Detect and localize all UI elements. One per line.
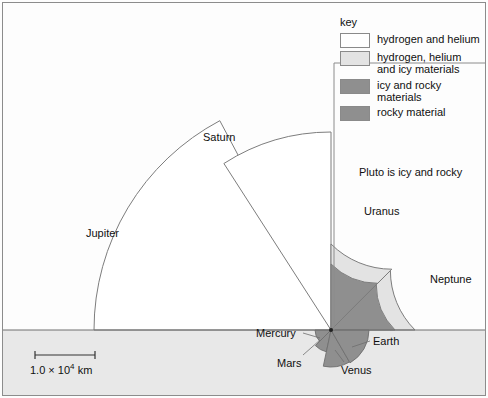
planet-size-comparison-figure: key hydrogen and helium hydrogen, helium… bbox=[0, 0, 488, 398]
key-panel: key hydrogen and helium hydrogen, helium… bbox=[340, 16, 486, 124]
scale-value: 1.0 bbox=[30, 364, 45, 376]
planet-label-mercury: Mercury bbox=[256, 327, 296, 340]
planet-label-uranus: Uranus bbox=[364, 205, 399, 218]
key-label-icy-and-rocky-materials: icy and rocky materials bbox=[377, 79, 441, 104]
planet-label-neptune: Neptune bbox=[430, 273, 472, 286]
planet-label-earth: Earth bbox=[373, 335, 399, 348]
scale-base: 10 bbox=[58, 364, 70, 376]
key-item-hydrogen-and-helium: hydrogen and helium bbox=[340, 33, 486, 48]
key-swatch-rocky-material bbox=[340, 106, 370, 121]
key-label-rocky-material: rocky material bbox=[377, 106, 445, 118]
planet-label-saturn: Saturn bbox=[203, 131, 235, 144]
key-swatch-hydrogen-and-helium bbox=[340, 33, 370, 48]
planet-label-venus: Venus bbox=[341, 364, 372, 377]
scale-exponent: 4 bbox=[70, 362, 74, 371]
scale-times: × bbox=[48, 364, 54, 376]
key-item-rocky-material: rocky material bbox=[340, 106, 486, 121]
scale-unit: km bbox=[78, 364, 93, 376]
key-swatch-hydrogen-helium-and-icy-materials bbox=[340, 51, 370, 66]
planet-label-mars: Mars bbox=[277, 357, 301, 370]
planet-label-jupiter: Jupiter bbox=[86, 227, 119, 240]
key-item-icy-and-rocky-materials: icy and rocky materials bbox=[340, 79, 486, 104]
scale-bar-caption: 1.0 × 104 km bbox=[30, 362, 92, 377]
origin-point bbox=[329, 328, 333, 332]
pluto-note: Pluto is icy and rocky bbox=[359, 166, 462, 179]
key-label-hydrogen-helium-and-icy-materials: hydrogen, helium and icy materials bbox=[377, 51, 461, 76]
key-title: key bbox=[340, 16, 486, 28]
key-label-hydrogen-and-helium: hydrogen and helium bbox=[377, 33, 480, 45]
key-item-hydrogen-helium-and-icy-materials: hydrogen, helium and icy materials bbox=[340, 51, 486, 76]
key-swatch-icy-and-rocky-materials bbox=[340, 79, 370, 94]
